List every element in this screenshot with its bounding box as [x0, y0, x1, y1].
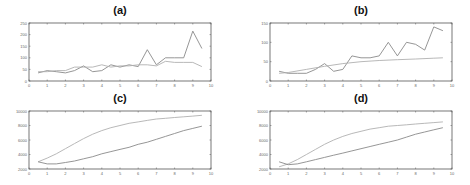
svg-text:10000: 10000	[257, 109, 269, 114]
svg-text:8000: 8000	[259, 123, 269, 128]
svg-text:6: 6	[378, 171, 381, 176]
svg-text:4: 4	[342, 171, 345, 176]
svg-text:2000: 2000	[259, 167, 269, 172]
chart-d-plot: 012345678910200040006000800010000	[0, 0, 470, 185]
svg-text:4000: 4000	[259, 152, 269, 157]
svg-text:6000: 6000	[259, 138, 269, 143]
svg-text:1: 1	[287, 171, 290, 176]
svg-text:2: 2	[305, 171, 308, 176]
svg-text:3: 3	[323, 171, 326, 176]
svg-text:9: 9	[433, 171, 436, 176]
svg-text:10: 10	[450, 171, 455, 176]
svg-text:7: 7	[396, 171, 399, 176]
svg-text:8: 8	[414, 171, 417, 176]
svg-text:5: 5	[360, 171, 363, 176]
svg-text:0: 0	[269, 171, 272, 176]
